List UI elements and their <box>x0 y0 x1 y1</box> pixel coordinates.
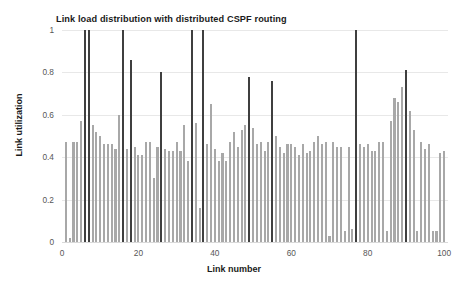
bar <box>160 72 162 242</box>
x-tick-label: 40 <box>200 248 230 258</box>
bar <box>424 149 426 242</box>
bar <box>241 130 243 242</box>
x-tick-label: 100 <box>429 248 459 258</box>
bar <box>103 144 105 242</box>
bar <box>420 142 422 242</box>
bar <box>309 151 311 242</box>
bar <box>156 147 158 242</box>
bar <box>439 153 441 242</box>
bar <box>336 147 338 242</box>
bar <box>294 147 296 242</box>
y-tick-label: 1 <box>20 25 54 35</box>
plot-area: 00.20.40.60.81 020406080100 <box>62 30 448 242</box>
x-tick-label: 20 <box>123 248 153 258</box>
bar <box>405 70 407 242</box>
bar <box>279 147 281 242</box>
bar <box>302 144 304 242</box>
bar <box>179 151 181 242</box>
bar <box>306 153 308 242</box>
bar <box>126 149 128 242</box>
bar <box>283 153 285 242</box>
bar-series <box>62 30 448 242</box>
bar <box>218 161 220 242</box>
bar <box>340 147 342 242</box>
x-axis-ticks: 020406080100 <box>62 242 448 262</box>
bar <box>332 142 334 242</box>
bar <box>428 144 430 242</box>
bar <box>237 147 239 242</box>
bar <box>80 121 82 242</box>
bar <box>92 125 94 242</box>
bar <box>183 125 185 242</box>
bar <box>252 128 254 242</box>
bar <box>267 142 269 242</box>
bar <box>359 144 361 242</box>
bar <box>149 142 151 242</box>
bar <box>225 161 227 242</box>
chart-figure: Link load distribution with distributed … <box>0 0 468 284</box>
bar <box>202 30 204 242</box>
bar <box>95 132 97 242</box>
bar <box>317 136 319 242</box>
bar <box>114 149 116 242</box>
bar <box>134 147 136 242</box>
bar <box>260 142 262 242</box>
bar <box>221 153 223 242</box>
y-tick-label: 0.4 <box>20 152 54 162</box>
bar <box>233 132 235 242</box>
bar <box>168 151 170 242</box>
bar <box>244 125 246 242</box>
bar <box>229 142 231 242</box>
bar <box>153 178 155 242</box>
bar <box>390 121 392 242</box>
bar <box>321 144 323 242</box>
bar <box>141 155 143 242</box>
bar <box>145 142 147 242</box>
bar <box>275 136 277 242</box>
y-tick-label: 0.6 <box>20 110 54 120</box>
bar <box>435 231 437 242</box>
bar <box>286 144 288 242</box>
bar <box>416 231 418 242</box>
bar <box>206 144 208 242</box>
bar <box>164 149 166 242</box>
bar <box>130 60 132 242</box>
bar <box>386 231 388 242</box>
bar <box>393 98 395 242</box>
bar <box>122 30 124 242</box>
bar <box>374 151 376 242</box>
bar <box>432 231 434 242</box>
bar <box>187 161 189 242</box>
bar <box>401 87 403 242</box>
bar <box>214 149 216 242</box>
bar <box>348 147 350 242</box>
bar <box>313 142 315 242</box>
bar <box>351 229 353 242</box>
bar <box>111 144 113 242</box>
bar <box>264 151 266 242</box>
bar <box>199 208 201 242</box>
bar <box>65 142 67 242</box>
bar <box>344 231 346 242</box>
x-tick-label: 80 <box>353 248 383 258</box>
bar <box>355 30 357 242</box>
bar <box>76 142 78 242</box>
bar <box>325 142 327 242</box>
bar <box>378 142 380 242</box>
bar <box>271 81 273 242</box>
bar <box>137 155 139 242</box>
y-tick-label: 0.2 <box>20 195 54 205</box>
y-tick-label: 0.8 <box>20 67 54 77</box>
bar <box>290 144 292 242</box>
bar <box>443 151 445 242</box>
bar <box>172 151 174 242</box>
bar <box>88 30 90 242</box>
bar <box>210 104 212 242</box>
bar <box>397 102 399 242</box>
bar <box>363 147 365 242</box>
bar <box>72 142 74 242</box>
bar <box>248 77 250 242</box>
bar <box>256 144 258 242</box>
bar <box>371 151 373 242</box>
bar <box>409 111 411 242</box>
